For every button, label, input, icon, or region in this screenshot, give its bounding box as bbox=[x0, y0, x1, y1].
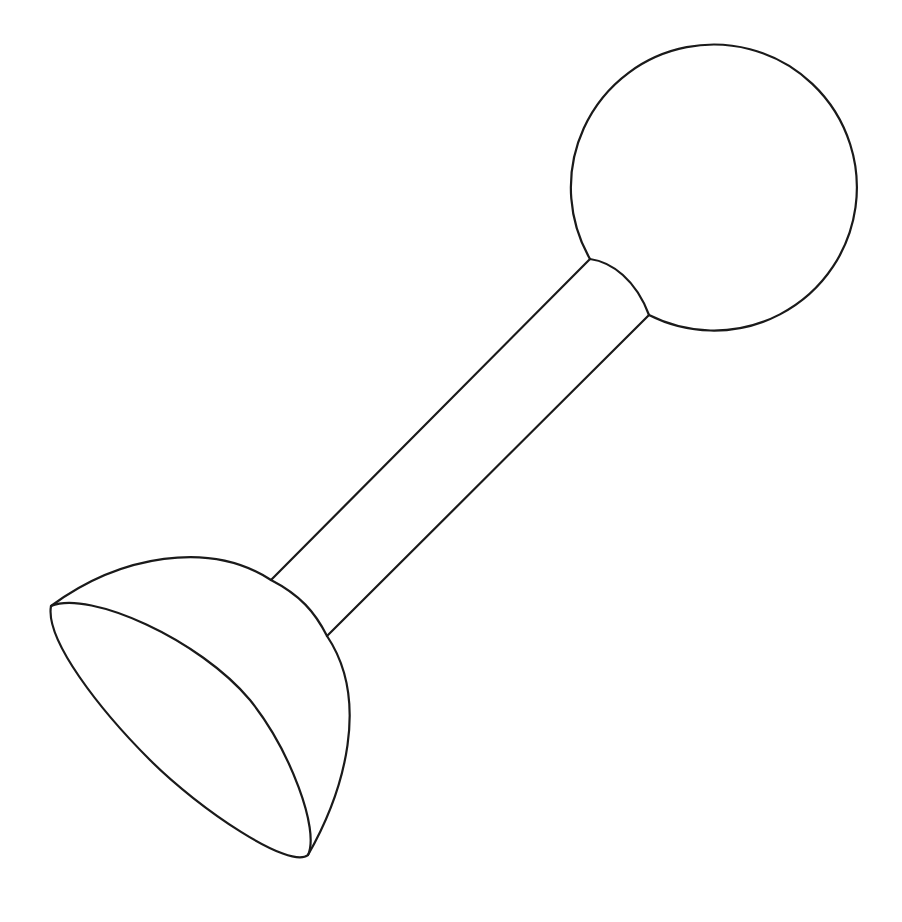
rod bbox=[271, 259, 649, 636]
hemisphere bbox=[51, 557, 350, 857]
figure-canvas bbox=[0, 0, 902, 922]
sphere bbox=[571, 45, 857, 331]
